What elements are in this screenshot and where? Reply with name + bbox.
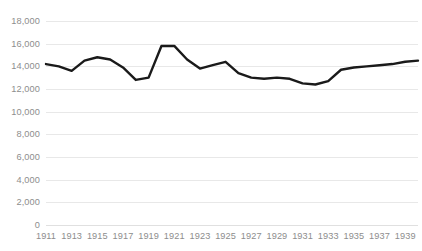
plot-area (46, 21, 418, 225)
y-tick-label: 2,000 (17, 197, 41, 207)
x-tick-label: 1935 (343, 231, 364, 241)
x-axis: 1911191319151917191919211923192519271929… (46, 229, 418, 251)
series-line (46, 21, 418, 225)
x-tick-label: 1919 (138, 231, 159, 241)
y-tick-label: 14,000 (11, 61, 40, 71)
line-chart: 02,0004,0006,0008,00010,00012,00014,0001… (0, 0, 422, 251)
x-tick-label: 1911 (36, 231, 56, 241)
y-tick-label: 10,000 (11, 107, 40, 117)
y-tick-label: 4,000 (17, 175, 41, 185)
series-polyline (46, 46, 418, 85)
x-tick-label: 1917 (113, 231, 134, 241)
x-tick-label: 1915 (87, 231, 108, 241)
x-tick-label: 1939 (395, 231, 416, 241)
x-tick-label: 1931 (292, 231, 313, 241)
gridline (46, 225, 418, 226)
y-tick-label: 8,000 (17, 129, 41, 139)
y-tick-label: 6,000 (17, 152, 41, 162)
y-tick-label: 16,000 (11, 39, 40, 49)
y-axis: 02,0004,0006,0008,00010,00012,00014,0001… (0, 0, 46, 251)
x-tick-label: 1933 (318, 231, 339, 241)
y-tick-label: 0 (35, 220, 40, 230)
x-tick-label: 1921 (164, 231, 185, 241)
x-tick-label: 1937 (369, 231, 390, 241)
x-tick-label: 1929 (266, 231, 287, 241)
x-tick-label: 1923 (190, 231, 211, 241)
x-tick-label: 1913 (61, 231, 82, 241)
x-tick-label: 1925 (215, 231, 236, 241)
x-tick-label: 1927 (241, 231, 262, 241)
y-tick-label: 18,000 (11, 16, 40, 26)
y-tick-label: 12,000 (11, 84, 40, 94)
